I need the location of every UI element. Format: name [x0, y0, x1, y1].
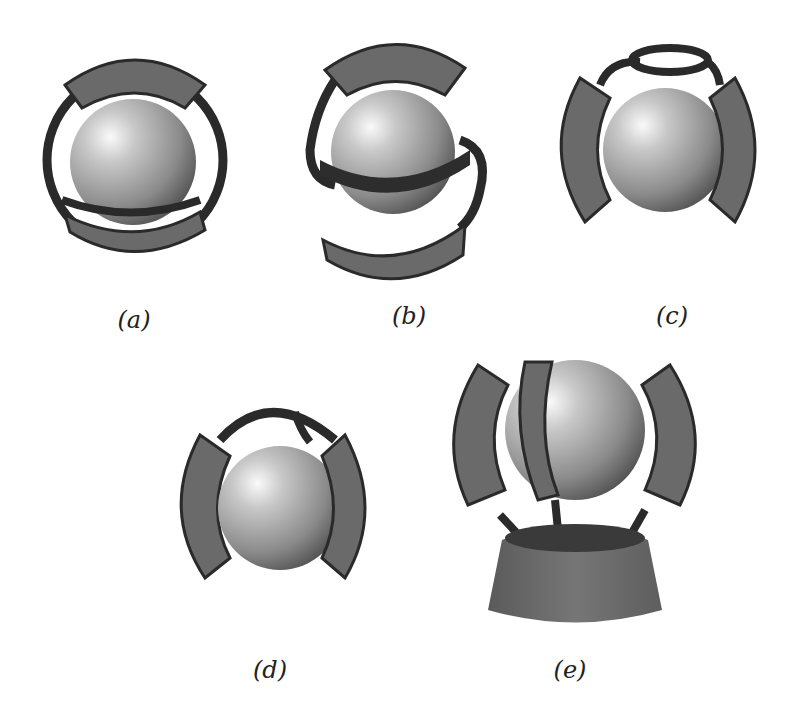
panel-c: (c) [530, 0, 795, 340]
panel-a-illustration [0, 0, 265, 340]
right-plate [642, 365, 695, 505]
panel-b-label: (b) [392, 302, 426, 330]
panel-e: (e) [430, 340, 730, 721]
sphere [331, 90, 455, 214]
arch-link [220, 413, 335, 441]
sphere [603, 88, 727, 212]
left-plate [454, 365, 508, 505]
panel-d: (d) [150, 360, 400, 721]
left-plate [561, 78, 610, 222]
panel-a-label: (a) [117, 306, 150, 334]
top-plate [325, 44, 465, 95]
panel-c-illustration [530, 0, 795, 340]
panel-c-label: (c) [656, 302, 688, 330]
panel-e-label: (e) [554, 656, 587, 684]
panel-b: (b) [265, 0, 530, 340]
panel-d-label: (d) [253, 656, 287, 684]
top-ring [632, 48, 708, 72]
panel-a: (a) [0, 0, 265, 340]
bottom-plate [323, 225, 465, 279]
panel-b-illustration [265, 0, 530, 340]
